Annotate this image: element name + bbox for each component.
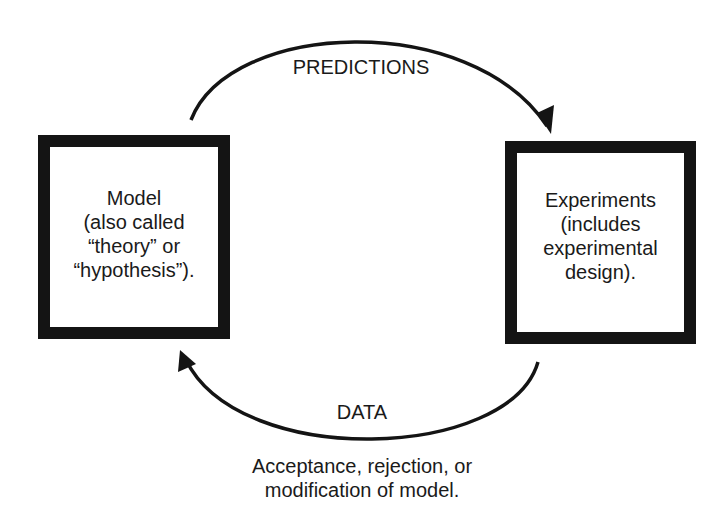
model-line: “theory” or [73, 234, 194, 258]
caption-line: modification of model. [0, 478, 724, 502]
predictions-arrowhead-icon [537, 105, 554, 134]
caption-line: Acceptance, rejection, or [0, 454, 724, 478]
model-line: (also called [73, 210, 194, 234]
data-label-text: DATA [337, 401, 387, 423]
data-label: DATA [0, 401, 724, 424]
experiments-text: Experiments (includes experimental desig… [543, 188, 658, 284]
model-line: “hypothesis”). [73, 258, 194, 282]
model-text: Model (also called “theory” or “hypothes… [73, 186, 194, 282]
data-arrow [186, 360, 538, 439]
data-arrowhead-icon [178, 350, 196, 372]
predictions-label: PREDICTIONS [0, 56, 724, 79]
experiments-line: experimental [543, 236, 658, 260]
experiments-line: (includes [543, 212, 658, 236]
model-title: Model [73, 186, 194, 210]
experiments-title: Experiments [543, 188, 658, 212]
experiments-line: design). [543, 260, 658, 284]
predictions-label-text: PREDICTIONS [293, 56, 430, 78]
experiments-box: Experiments (includes experimental desig… [505, 141, 696, 344]
predictions-arrow [191, 42, 547, 126]
model-box: Model (also called “theory” or “hypothes… [38, 135, 230, 339]
caption: Acceptance, rejection, or modification o… [0, 454, 724, 502]
